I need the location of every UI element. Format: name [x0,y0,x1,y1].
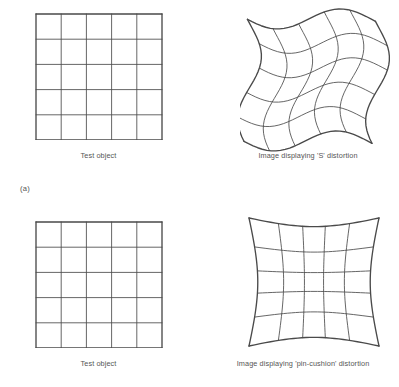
distortion-figure: Test object Image displaying 'S' distort… [0,0,399,387]
panel-test-object-b [35,221,163,348]
grid-test-object-b [35,221,163,348]
grid-test-object-a [35,13,163,140]
part-label-a: (a) [20,184,30,193]
caption-test-object-b: Test object [35,359,162,369]
panel-s-distortion [240,8,390,153]
caption-test-object-a: Test object [35,151,162,161]
panel-test-object-a [35,13,163,140]
grid-s-distortion [240,8,390,153]
caption-pincushion: Image displaying 'pin-cushion' distortio… [208,359,398,369]
panel-pincushion [240,212,390,354]
grid-pincushion [240,212,390,354]
caption-s-distortion: Image displaying 'S' distortion [228,151,388,161]
